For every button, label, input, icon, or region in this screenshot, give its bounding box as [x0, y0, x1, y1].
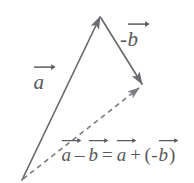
- equation-lhs-b: b: [88, 145, 99, 164]
- vector-neg-b-label: -b: [120, 29, 139, 50]
- equation-equals-operator: =: [99, 145, 116, 164]
- equation-rhs-b: b: [158, 145, 169, 164]
- vector-equation: a –b =a +(-b ): [61, 145, 176, 164]
- vector-a-minus-b-line: [23, 88, 139, 179]
- vector-a-symbol: a: [33, 72, 45, 93]
- vector-b-symbol: b: [127, 29, 139, 50]
- equation-rhs-minus-sign: -: [151, 145, 158, 164]
- equation-open-paren: (: [144, 145, 151, 164]
- equation-lhs-a: a: [61, 145, 72, 164]
- equation-close-paren: ): [169, 145, 176, 164]
- equation-rhs-a: a: [116, 145, 127, 164]
- vector-a-label: a: [33, 72, 45, 93]
- vector-diagram: a -b a –b =a +(-b ): [0, 0, 194, 183]
- neg-b-minus-sign: -: [120, 29, 127, 50]
- equation-plus-operator: +: [127, 145, 144, 164]
- equation-minus-operator: –: [72, 145, 88, 164]
